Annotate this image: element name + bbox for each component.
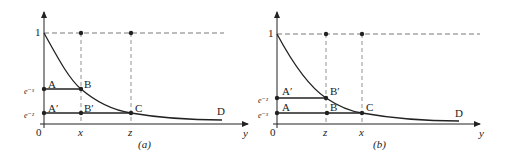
panel-b	[273, 12, 480, 128]
x-axis-label: y	[243, 128, 248, 139]
point-A-label: A	[48, 79, 56, 90]
point-B-prime-label: B′	[84, 103, 94, 114]
lower-level-label: e⁻ᶻ	[24, 110, 34, 121]
origin-label: 0	[36, 127, 42, 138]
caption-b: (b)	[373, 139, 386, 150]
caption-a: (a)	[138, 139, 151, 150]
point-A-prime-label: A′	[282, 86, 292, 97]
tick-label-z: z	[128, 127, 132, 138]
point-D-label: D	[217, 106, 225, 117]
x-axis-label: y	[479, 128, 484, 139]
y-one-label: 1	[268, 28, 274, 39]
upper-level-label: e⁻ˣ	[24, 86, 34, 97]
point-A-prime-label: A′	[48, 103, 58, 114]
tick-label-x: x	[78, 127, 83, 138]
upper-level-label: e⁻ᶻ	[258, 95, 268, 106]
lower-level-label: e⁻ˣ	[258, 110, 268, 121]
y-one-label: 1	[35, 27, 41, 38]
tick-label-z: z	[323, 127, 327, 138]
point-B-label: B	[330, 102, 337, 113]
diagram-canvas	[0, 0, 512, 158]
point-C-label: C	[135, 103, 142, 114]
tick-label-x: x	[359, 127, 364, 138]
point-B-label: B	[84, 79, 91, 90]
point-D-label: D	[455, 108, 463, 119]
point-A-label: A	[282, 102, 290, 113]
exp-decay-curve	[44, 33, 222, 120]
point-B-prime-label: B′	[330, 86, 340, 97]
origin-label: 0	[270, 127, 276, 138]
point-C-label: C	[366, 102, 373, 113]
